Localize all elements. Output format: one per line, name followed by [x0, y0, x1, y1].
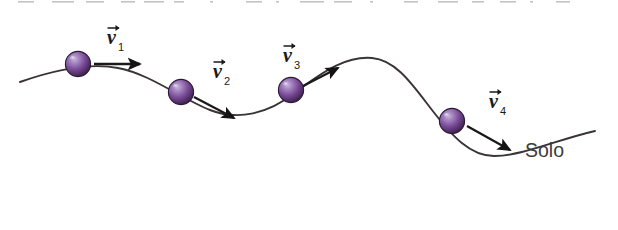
svg-text:4: 4 — [500, 105, 506, 117]
vector-label-v3: v3 — [283, 43, 300, 71]
top-edge-mark — [334, 1, 352, 3]
vector-label-v4: v4 — [489, 89, 506, 117]
top-edge-mark — [121, 1, 135, 3]
top-edge-mark — [246, 1, 262, 3]
svg-text:2: 2 — [224, 75, 230, 87]
top-edge-mark — [52, 1, 74, 3]
top-edge-mark — [210, 1, 213, 3]
ground-label: Solo — [525, 139, 564, 161]
top-edge-mark — [300, 1, 324, 3]
top-edge-mark — [530, 1, 533, 3]
top-edge-mark — [438, 1, 458, 3]
top-edge-mark — [86, 1, 104, 3]
top-edge-mark — [404, 1, 418, 3]
top-edge-mark — [472, 1, 484, 3]
top-edge-marks — [18, 1, 570, 3]
vector-label-v1: v1 — [107, 25, 124, 53]
physics-figure: v1v2v3v4 Solo Banco de imagens/Arquivo d… — [0, 0, 618, 230]
top-edge-mark — [144, 1, 164, 3]
vector-arrow-v3 — [303, 68, 338, 86]
svg-text:3: 3 — [294, 59, 300, 71]
velocity-vector-labels: v1v2v3v4 — [107, 25, 506, 117]
figure-canvas: v1v2v3v4 Solo — [0, 0, 618, 230]
ball-v2 — [168, 79, 193, 104]
ball-v3 — [278, 77, 303, 102]
top-edge-mark — [174, 1, 184, 3]
vector-arrow-v4 — [467, 126, 510, 150]
ball-v4 — [439, 108, 464, 133]
ground-curve — [20, 58, 595, 156]
top-edge-mark — [556, 1, 570, 3]
top-edge-mark — [276, 1, 279, 3]
top-edge-mark — [18, 1, 34, 3]
vector-arrow-v2 — [194, 97, 234, 118]
top-edge-mark — [500, 1, 516, 3]
svg-text:1: 1 — [118, 41, 124, 53]
velocity-vectors — [94, 64, 510, 150]
top-edge-mark — [370, 1, 373, 3]
vector-label-v2: v2 — [213, 59, 230, 87]
ball-v1 — [65, 51, 90, 76]
